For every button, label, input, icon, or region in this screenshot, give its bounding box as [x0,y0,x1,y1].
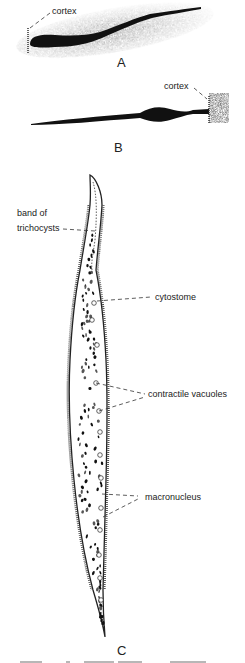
contractile-vacuole [98,430,103,435]
cortex-label: cortex [164,81,189,91]
macronucleus-leader-line-2 [103,499,138,517]
contractile-vacuole [97,553,102,558]
trichocyst-body [31,107,209,125]
band-of-trichocysts-label-line1: band of [17,208,48,218]
panel-label-a: A [117,55,126,70]
contractile-vacuole [99,476,104,481]
contractile-vacuole [90,318,95,323]
panel-c: band of trichocysts cytostome contractil… [17,175,228,658]
macronucleus-label: macronucleus [145,492,202,502]
panel-b: cortex B [31,81,229,155]
panel-a: cortex A [13,0,218,70]
panel-label-c: C [117,643,126,658]
contractile-vacuoles-label: contractile vacuoles [148,389,228,399]
panel-label-b: B [114,140,123,155]
cell-outline [69,175,107,637]
cortex-label: cortex [52,6,77,16]
contractile-vacuole [98,528,103,533]
contractile-vacuole [99,506,104,511]
cytostome-leader-line [97,297,151,301]
contractile-vacuole [98,453,103,458]
cortex-leader-line [194,88,207,99]
band-of-trichocysts-label-line2: trichocysts [17,223,60,233]
contractile-vacuole [98,576,103,581]
contractile-vacuole [92,301,97,306]
figure-canvas: cortex A cortex B band of trichocysts cy… [0,0,245,663]
granule [91,234,93,238]
contractile-vacuole [95,343,100,348]
cortex-stipple [209,93,229,123]
contractile-vacuole [99,598,104,603]
cytostome-label: cytostome [155,292,196,302]
